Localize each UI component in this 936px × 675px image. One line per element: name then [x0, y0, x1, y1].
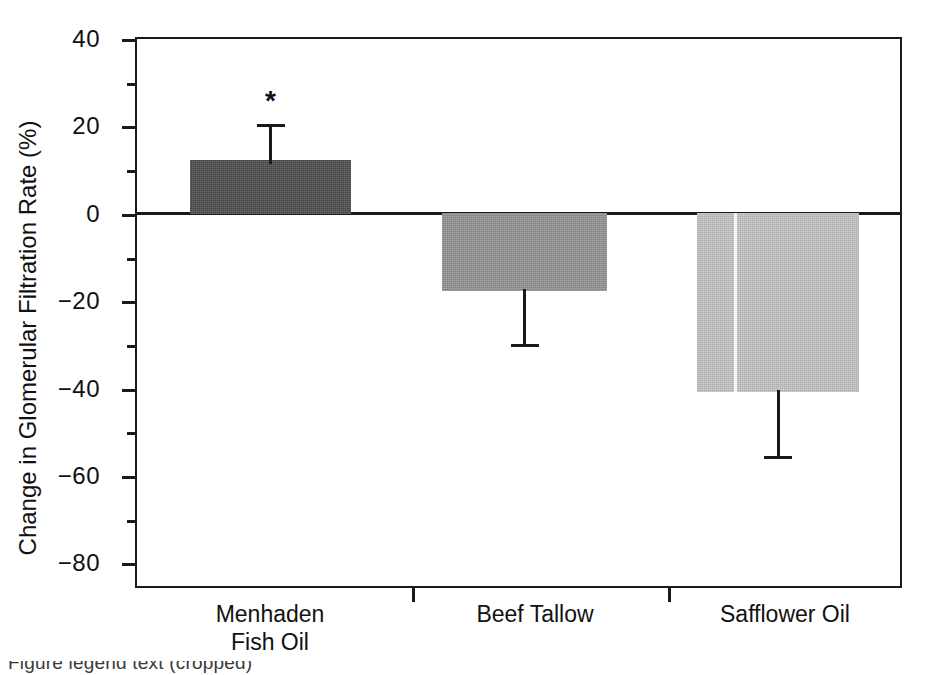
error-bar-cap: [257, 124, 285, 127]
x-axis-label-beef-tallow: Beef Tallow: [415, 600, 655, 628]
y-tick-minor-neg50: [127, 432, 136, 435]
error-bar-cap: [511, 344, 539, 347]
scan-streak-artifact: [734, 213, 737, 392]
y-tick-label-40: 40: [72, 25, 100, 53]
y-tick-neg40: −40: [122, 389, 136, 392]
y-tick-label-0: 0: [86, 200, 100, 228]
y-axis-title: Change in Glomerular Filtration Rate (%): [14, 120, 42, 555]
bar-beef-tallow[interactable]: [442, 213, 607, 291]
y-tick-neg80: −80: [122, 563, 136, 566]
error-bar-stem: [777, 390, 780, 457]
error-bar-stem: [269, 126, 272, 164]
error-bar-safflower-oil: [697, 390, 859, 459]
bar-texture: [697, 213, 859, 392]
y-tick-label-neg20: −20: [58, 287, 100, 315]
error-bar-cap: [764, 456, 792, 459]
y-tick-label-neg60: −60: [58, 462, 100, 490]
y-tick-minor-30: [127, 83, 136, 86]
figure-bar-chart: Change in Glomerular Filtration Rate (%)…: [0, 0, 936, 675]
x-axis-label-safflower-oil: Safflower Oil: [665, 600, 905, 628]
bar-texture: [190, 160, 351, 214]
y-tick-label-neg40: −40: [58, 375, 100, 403]
significance-marker-menhaden-fish-oil: *: [265, 87, 276, 115]
y-tick-20: 20: [122, 126, 136, 129]
figure-caption-text: Figure legend text (cropped): [8, 661, 936, 674]
bar-texture: [442, 213, 607, 291]
bar-safflower-oil[interactable]: [697, 213, 859, 392]
error-bar-menhaden-fish-oil: [190, 124, 351, 164]
y-tick-minor-10: [127, 170, 136, 173]
y-tick-minor-neg30: [127, 345, 136, 348]
y-tick-0: 0: [122, 214, 136, 217]
x-axis-label-menhaden-fish-oil: Menhaden Fish Oil: [150, 600, 390, 656]
error-bar-beef-tallow: [442, 289, 607, 347]
error-bar-stem: [523, 289, 526, 345]
y-tick-40: 40: [122, 39, 136, 42]
y-tick-neg60: −60: [122, 476, 136, 479]
y-tick-label-neg80: −80: [58, 549, 100, 577]
y-tick-label-20: 20: [72, 112, 100, 140]
bar-menhaden-fish-oil[interactable]: [190, 160, 351, 214]
y-tick-neg20: −20: [122, 301, 136, 304]
y-tick-minor-neg70: [127, 520, 136, 523]
y-tick-minor-neg10: [127, 258, 136, 261]
figure-caption-fragment: Figure legend text (cropped): [0, 661, 936, 675]
plot-area: 40 20 0 −20 −40 −60 −80: [135, 37, 902, 588]
